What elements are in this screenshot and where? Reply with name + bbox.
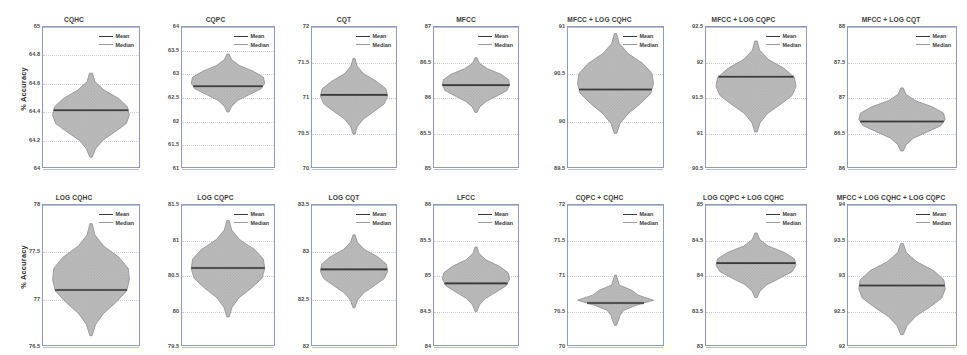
violin-container <box>568 205 663 345</box>
y-tick-label: 72 <box>303 24 312 30</box>
y-tick-label: 62 <box>173 119 182 125</box>
y-tick-label: 93 <box>839 273 848 279</box>
mean-line-swatch-icon <box>234 36 248 37</box>
mean-line-swatch-icon <box>99 36 113 37</box>
y-tick-label: 86.5 <box>834 131 848 137</box>
y-tick-label: 83.5 <box>298 202 312 208</box>
panel-10: LOG CQT8282.58383.5MeanMedian <box>283 178 405 355</box>
legend-item-median: Median <box>766 220 801 226</box>
median-line-swatch-icon <box>766 44 780 45</box>
y-tick-label: 72 <box>559 202 568 208</box>
mean-line-swatch-icon <box>99 214 113 215</box>
mean-line-swatch-icon <box>766 36 780 37</box>
legend-label: Mean <box>639 211 653 217</box>
y-tick-label: 64.8 <box>29 53 43 59</box>
violin-container <box>434 205 518 345</box>
violin-shape <box>312 205 396 345</box>
legend-item-mean: Mean <box>356 33 386 39</box>
panel-row-1: LOG CQHC% Accuracy76.57777.578MeanMedian… <box>0 178 967 355</box>
y-tick-label: 84 <box>697 273 706 279</box>
legend: MeanMedian <box>356 211 391 226</box>
gridline <box>568 347 663 348</box>
violin-container <box>568 27 663 167</box>
y-tick-label: 87 <box>425 24 434 30</box>
violin-container <box>848 205 956 345</box>
violin-shape <box>434 205 518 345</box>
panel-title: LFCC <box>405 194 527 201</box>
panel-3: CQT7070.57171.572MeanMedian <box>283 0 405 177</box>
legend-item-median: Median <box>356 220 391 226</box>
panel-title: CQHC <box>0 16 148 23</box>
y-tick-label: 70.5 <box>298 131 312 137</box>
legend-item-mean: Mean <box>623 211 653 217</box>
panel-2: CQPC6161.56262.56363.564MeanMedian <box>148 0 283 177</box>
plot-area: 8282.58383.5MeanMedian <box>311 204 397 346</box>
panel-title: CQPC + CQHC <box>527 194 672 201</box>
plot-area: 7070.57171.572MeanMedian <box>311 26 397 168</box>
legend-label: Median <box>115 220 134 226</box>
panel-title: MFCC + LOG CQPC <box>672 16 815 23</box>
y-tick-label: 86.5 <box>420 60 434 66</box>
mean-line-swatch-icon <box>478 36 492 37</box>
y-tick-label: 86 <box>839 166 848 172</box>
violin-shape <box>43 27 139 167</box>
legend-label: Mean <box>932 33 946 39</box>
plot-area: 9292.59393.594MeanMedian <box>847 204 957 346</box>
mean-line-swatch-icon <box>766 214 780 215</box>
violin-shape <box>568 27 663 167</box>
y-tick-label: 94 <box>839 202 848 208</box>
median-line-swatch-icon <box>356 222 370 223</box>
median-line-swatch-icon <box>623 222 637 223</box>
violin-shape <box>568 205 663 345</box>
legend: MeanMedian <box>478 211 513 226</box>
gridline <box>182 169 274 170</box>
plot-area: 89.59090.591MeanMedian <box>567 26 664 168</box>
y-tick-label: 77.5 <box>29 250 43 256</box>
legend-label: Mean <box>115 33 129 39</box>
legend-item-mean: Mean <box>766 33 796 39</box>
y-tick-label: 71 <box>559 273 568 279</box>
y-tick-label: 64 <box>173 24 182 30</box>
panel-title: LOG CQHC <box>0 194 148 201</box>
y-tick-label: 92 <box>839 344 848 350</box>
violin-shape <box>182 205 274 345</box>
median-line-swatch-icon <box>234 44 248 45</box>
gridline <box>848 169 956 170</box>
legend-item-mean: Mean <box>234 211 264 217</box>
panel-title: MFCC + LOG CQT <box>815 16 967 23</box>
legend-label: Median <box>250 220 269 226</box>
legend-item-median: Median <box>234 220 269 226</box>
violin-container <box>312 27 396 167</box>
mean-line-swatch-icon <box>234 214 248 215</box>
y-tick-label: 90 <box>559 119 568 125</box>
legend-label: Mean <box>782 33 796 39</box>
gridline <box>706 169 806 170</box>
legend-item-mean: Mean <box>99 211 129 217</box>
y-tick-label: 90.5 <box>554 72 568 78</box>
legend-item-median: Median <box>478 42 513 48</box>
violin-container <box>182 27 274 167</box>
violin-shape <box>848 27 956 167</box>
legend-label: Median <box>639 42 658 48</box>
legend-label: Mean <box>250 33 264 39</box>
legend-item-median: Median <box>478 220 513 226</box>
y-tick-label: 92.5 <box>834 309 848 315</box>
legend-label: Median <box>372 42 391 48</box>
y-tick-label: 70 <box>559 344 568 350</box>
legend-item-median: Median <box>99 42 134 48</box>
violin-container <box>312 205 396 345</box>
gridline <box>312 169 396 170</box>
panel-title: LOG CQPC <box>148 194 283 201</box>
y-tick-label: 71.5 <box>554 238 568 244</box>
plot-area: 7070.57171.572MeanMedian <box>567 204 664 346</box>
legend-label: Median <box>250 42 269 48</box>
violin-container <box>43 27 139 167</box>
legend-item-median: Median <box>623 220 658 226</box>
violin-container <box>182 205 274 345</box>
y-tick-label: 62.5 <box>168 95 182 101</box>
legend-item-median: Median <box>356 42 391 48</box>
median-line-swatch-icon <box>234 222 248 223</box>
y-tick-label: 89.5 <box>554 166 568 172</box>
y-tick-label: 91 <box>559 24 568 30</box>
y-tick-label: 92 <box>697 60 706 66</box>
